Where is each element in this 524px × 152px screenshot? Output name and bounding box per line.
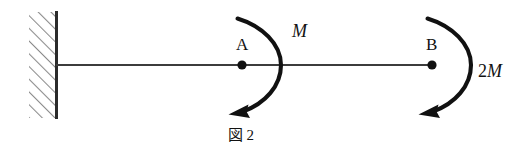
fixed-support-hatching: [29, 12, 56, 118]
figure-container: A B M 2M 図2: [0, 0, 524, 152]
moment-b-coefficient: 2: [478, 61, 487, 81]
caption-number: 2: [247, 127, 255, 143]
caption-kanji: 図: [228, 127, 244, 143]
point-b-dot: [427, 60, 436, 69]
point-label-b: B: [426, 36, 437, 53]
figure-caption: 図2: [228, 128, 255, 143]
moment-a-symbol: M: [292, 21, 307, 41]
moment-label-a: M: [292, 22, 307, 40]
moment-label-b: 2M: [478, 62, 502, 80]
moment-b-symbol: M: [487, 61, 502, 81]
point-label-a: A: [236, 36, 248, 53]
beam-diagram-canvas: [0, 0, 524, 152]
point-a-dot: [237, 60, 246, 69]
